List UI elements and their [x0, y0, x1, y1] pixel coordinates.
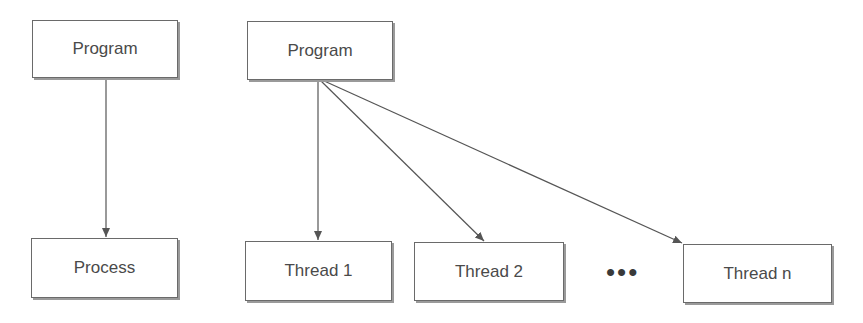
program-label: Program: [287, 41, 352, 61]
arrow-program-to-thread-n: [322, 80, 682, 243]
arrow-program-to-thread-2: [320, 80, 484, 241]
thread-2-label: Thread 2: [455, 262, 523, 282]
process-box: Process: [31, 238, 178, 298]
program-box-right: Program: [247, 21, 393, 80]
thread-n-box: Thread n: [683, 244, 832, 303]
thread-2-box: Thread 2: [414, 242, 564, 301]
thread-1-label: Thread 1: [284, 261, 352, 281]
thread-1-box: Thread 1: [245, 241, 392, 301]
thread-n-label: Thread n: [723, 264, 791, 284]
ellipsis: •••: [606, 259, 639, 285]
process-label: Process: [74, 258, 135, 278]
program-box-left: Program: [32, 20, 178, 78]
program-label: Program: [72, 39, 137, 59]
